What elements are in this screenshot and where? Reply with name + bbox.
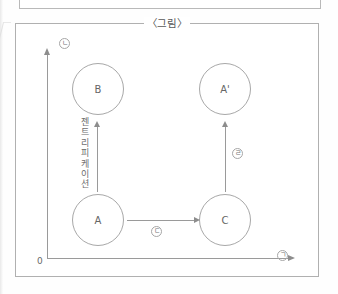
node-c: C (199, 194, 251, 246)
scan-corner-artifact (0, 22, 11, 39)
node-a-prime-label: A' (220, 84, 230, 95)
caption-char: 젠 (78, 117, 92, 127)
gentrification-caption: 젠 트 리 피 케 이 션 (78, 117, 92, 190)
arrow-a-to-b-line (97, 126, 98, 192)
node-b-label: B (95, 84, 102, 95)
node-a: A (72, 194, 124, 246)
marker-arrow-a-to-c: ㄷ (151, 226, 162, 237)
arrow-a-to-c-line (127, 220, 195, 221)
scan-edge-artifact (0, 0, 3, 294)
figure-frame (15, 23, 319, 277)
caption-char: 트 (78, 127, 92, 137)
x-axis-arrow-right-icon (288, 255, 295, 261)
marker-y-axis: ㄴ (59, 38, 70, 49)
x-axis-line (47, 258, 290, 259)
arrow-c-to-a-prime-arrow-up-icon (222, 121, 228, 127)
y-axis-arrow-up-icon (44, 48, 50, 55)
caption-char: 리 (78, 138, 92, 148)
y-axis-line (47, 54, 48, 259)
partial-upper-box (19, 0, 321, 9)
figure-title: 〈그림〉 (144, 17, 191, 30)
marker-arrow-c-to-ap: ㄹ (232, 148, 243, 159)
node-b: B (72, 63, 124, 115)
marker-x-axis: ㄱ (277, 250, 288, 261)
caption-char: 케 (78, 159, 92, 169)
caption-char: 피 (78, 148, 92, 158)
caption-char: 이 (78, 169, 92, 179)
origin-label: 0 (37, 256, 43, 266)
figure-title-container: 〈그림〉 (15, 15, 319, 32)
node-a-label: A (95, 215, 102, 226)
node-a-prime: A' (199, 63, 251, 115)
arrow-c-to-a-prime-line (225, 126, 226, 192)
caption-char: 션 (78, 179, 92, 189)
arrow-a-to-b-arrow-up-icon (94, 121, 100, 127)
scanned-page: 〈그림〉 0 ㄴ ㄱ ㄷ ㄹ B A' A C 젠 트 리 피 케 이 션 (0, 0, 338, 294)
arrow-a-to-c-arrow-right-icon (194, 217, 200, 223)
node-c-label: C (222, 215, 229, 226)
